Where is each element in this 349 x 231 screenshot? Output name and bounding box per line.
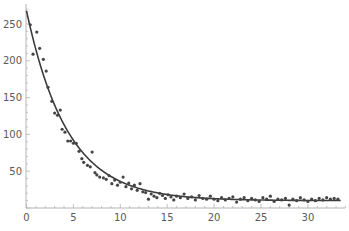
data-point [69, 139, 72, 142]
svg-text:0: 0 [23, 212, 29, 223]
data-point [133, 184, 136, 187]
data-point [136, 189, 139, 192]
data-point [35, 30, 38, 33]
data-point [261, 196, 264, 199]
data-point [197, 194, 200, 197]
data-point [155, 196, 158, 199]
data-point [158, 192, 161, 195]
data-point [116, 184, 119, 187]
data-point [122, 175, 125, 178]
data-point [254, 198, 257, 201]
data-point [325, 196, 328, 199]
data-point [329, 198, 332, 201]
data-point [190, 195, 193, 198]
data-point [295, 199, 298, 202]
data-point [66, 139, 69, 142]
data-point [102, 176, 105, 179]
data-point [31, 53, 34, 56]
data-point [172, 198, 175, 201]
data-point [201, 197, 204, 200]
svg-text:25: 25 [255, 212, 268, 223]
data-point [243, 196, 246, 199]
svg-text:150: 150 [3, 92, 22, 103]
data-point [336, 198, 339, 201]
data-point [209, 195, 212, 198]
data-point [119, 181, 122, 184]
data-point [175, 195, 178, 198]
data-point [224, 198, 227, 201]
svg-text:50: 50 [9, 166, 22, 177]
data-point [161, 194, 164, 197]
data-point [265, 198, 268, 201]
data-point [86, 164, 89, 167]
data-point [228, 197, 231, 200]
data-point [98, 175, 101, 178]
data-point [169, 195, 172, 198]
clipped-caption [0, 229, 349, 231]
data-point [310, 198, 313, 201]
data-point [110, 182, 113, 185]
data-point [246, 199, 249, 202]
data-point [152, 195, 155, 198]
data-point [29, 23, 32, 26]
data-point [235, 201, 238, 204]
data-point [38, 47, 41, 50]
data-point [82, 161, 85, 164]
data-point [318, 197, 321, 200]
data-point [306, 200, 309, 203]
data-point [147, 198, 150, 201]
data-point [113, 178, 116, 181]
data-point [150, 192, 153, 195]
data-point [50, 100, 53, 103]
data-point [141, 190, 144, 193]
data-point [213, 198, 216, 201]
data-point [45, 70, 48, 73]
data-point [124, 185, 127, 188]
data-point [63, 131, 66, 134]
data-point [333, 197, 336, 200]
svg-text:250: 250 [3, 19, 22, 30]
data-point [321, 198, 324, 201]
fit-curve [27, 11, 341, 201]
data-point [72, 142, 75, 145]
data-point [77, 150, 80, 153]
data-point [127, 181, 130, 184]
data-point [269, 195, 272, 198]
y-tick-labels: 50100150200250 [3, 19, 22, 177]
svg-text:5: 5 [70, 212, 76, 223]
data-point [167, 193, 170, 196]
data-point [276, 198, 279, 201]
data-point [273, 200, 276, 203]
data-point [182, 192, 185, 195]
decay-scatter-chart: 051015202530 50100150200250 [0, 0, 349, 231]
data-point [61, 128, 64, 131]
data-point [303, 198, 306, 201]
data-point [42, 58, 45, 61]
data-point [288, 203, 291, 206]
data-point [194, 198, 197, 201]
data-points [29, 23, 340, 207]
data-point [291, 198, 294, 201]
data-point [314, 199, 317, 202]
data-point [130, 187, 133, 190]
data-point [239, 198, 242, 201]
data-point [299, 196, 302, 199]
data-point [53, 111, 56, 114]
svg-text:30: 30 [302, 212, 315, 223]
data-point [107, 174, 110, 177]
data-point [95, 173, 98, 176]
data-point [105, 178, 108, 181]
data-point [59, 109, 62, 112]
data-point [144, 191, 147, 194]
data-point [280, 198, 283, 201]
axis-ticks [26, 9, 345, 208]
data-point [91, 150, 94, 153]
data-point [75, 142, 78, 145]
data-point [258, 200, 261, 203]
data-point [284, 197, 287, 200]
svg-text:100: 100 [3, 129, 22, 140]
data-point [80, 157, 83, 160]
x-tick-labels: 051015202530 [23, 212, 314, 223]
data-point [46, 86, 49, 89]
data-point [216, 199, 219, 202]
